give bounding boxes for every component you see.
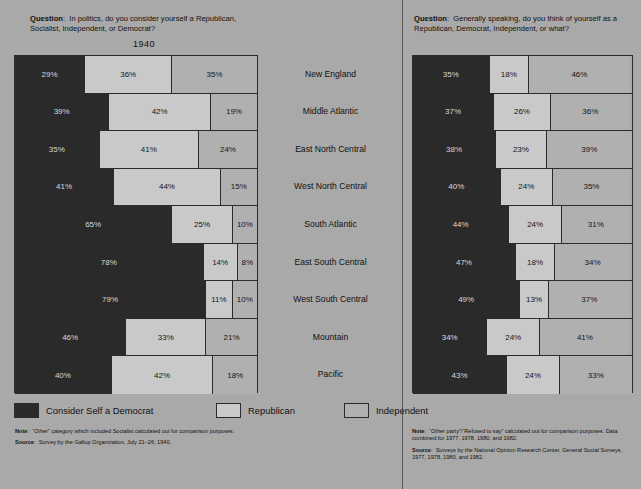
bar-segment-democrat: 34% <box>413 319 487 356</box>
bar-segment-independent: 39% <box>547 131 632 168</box>
region-label-mountain: Mountain <box>258 318 403 356</box>
bar-segment-republican: 33% <box>126 319 206 356</box>
bar-segment-republican: 13% <box>520 281 548 318</box>
bar-segment-democrat: 44% <box>413 206 509 243</box>
region-label-column: New EnglandMiddle AtlanticEast North Cen… <box>258 55 403 393</box>
bar-row: 29%36%35% <box>15 56 257 94</box>
bar-row: 65%25%10% <box>15 206 257 244</box>
right-note-text: “Other party”/“Refused to say” calculate… <box>412 428 618 441</box>
right-question-label: Question <box>414 14 447 23</box>
left-footnotes: Note: “Other” category which included So… <box>15 428 245 451</box>
region-label-south-atlantic: South Atlantic <box>258 205 403 243</box>
right-note: Note: “Other party”/“Refused to say” cal… <box>412 428 636 443</box>
right-footnotes: Note: “Other party”/“Refused to say” cal… <box>412 428 636 466</box>
bar-segment-democrat: 43% <box>413 356 507 394</box>
bar-segment-republican: 11% <box>206 281 233 318</box>
bar-segment-independent: 41% <box>540 319 630 356</box>
legend-item-independent: Independent <box>344 403 428 418</box>
bar-segment-democrat: 47% <box>413 244 516 281</box>
region-label-new-england: New England <box>258 55 403 93</box>
region-label-west-south-central: West South Central <box>258 280 403 318</box>
left-source-label: Source <box>15 439 34 445</box>
bar-segment-independent: 37% <box>549 281 630 318</box>
bar-segment-republican: 24% <box>487 319 540 356</box>
bar-segment-independent: 31% <box>562 206 630 243</box>
bar-segment-democrat: 49% <box>413 281 520 318</box>
bar-segment-republican: 41% <box>100 131 199 168</box>
bar-segment-republican: 36% <box>85 56 172 93</box>
left-note: Note: “Other” category which included So… <box>15 428 245 435</box>
bar-segment-republican: 18% <box>516 244 555 281</box>
bar-segment-republican: 44% <box>114 169 220 206</box>
bar-segment-independent: 35% <box>172 56 257 93</box>
bar-segment-independent: 21% <box>206 319 257 356</box>
bar-segment-independent: 35% <box>553 169 630 206</box>
bar-segment-republican: 24% <box>501 169 554 206</box>
bar-segment-independent: 15% <box>221 169 257 206</box>
bar-row: 78%14%8% <box>15 244 257 282</box>
left-question-block: Question: In politics, do you consider y… <box>30 14 260 33</box>
right-panel: Question: Generally speaking, do you thi… <box>403 0 641 489</box>
bar-row: 39%42%19% <box>15 94 257 132</box>
bar-segment-independent: 34% <box>555 244 629 281</box>
legend-swatch-democrat <box>14 403 39 418</box>
bar-segment-democrat: 41% <box>15 169 114 206</box>
right-source: Source: Surveys by the National Opinion … <box>412 447 636 462</box>
region-label-east-south-central: East South Central <box>258 243 403 281</box>
bar-segment-independent: 36% <box>551 94 630 131</box>
bar-segment-democrat: 78% <box>15 244 204 281</box>
bar-segment-independent: 18% <box>213 356 257 394</box>
legend-swatch-independent <box>344 403 369 418</box>
legend-item-republican: Republican <box>216 403 295 418</box>
bar-segment-republican: 24% <box>507 356 560 394</box>
left-note-text: “Other” category which included Socialis… <box>32 428 234 434</box>
bar-row: 41%44%15% <box>15 169 257 207</box>
bar-segment-republican: 42% <box>109 94 211 131</box>
bar-segment-republican: 18% <box>490 56 529 93</box>
right-source-text: Surveys by the National Opinion Research… <box>412 447 622 460</box>
bar-row: 37%26%36% <box>413 94 632 132</box>
chart-legend: Consider Self a DemocratRepublicanIndepe… <box>14 399 403 421</box>
bar-segment-independent: 10% <box>233 206 257 243</box>
bar-row: 35%18%46% <box>413 56 632 94</box>
bar-segment-independent: 19% <box>211 94 257 131</box>
bar-segment-democrat: 39% <box>15 94 109 131</box>
bar-segment-republican: 14% <box>204 244 238 281</box>
bar-segment-democrat: 46% <box>15 319 126 356</box>
bar-segment-democrat: 40% <box>413 169 501 206</box>
bar-segment-democrat: 79% <box>15 281 206 318</box>
legend-label-republican: Republican <box>248 405 295 416</box>
bar-row: 47%18%34% <box>413 244 632 282</box>
bar-segment-republican: 24% <box>509 206 562 243</box>
left-source-text: Survey by the Gallup Organization, July … <box>39 439 171 445</box>
bar-row: 35%41%24% <box>15 131 257 169</box>
bar-row: 43%24%33% <box>413 356 632 394</box>
left-question-label: Question <box>30 14 63 23</box>
legend-item-democrat: Consider Self a Democrat <box>14 403 153 418</box>
bar-segment-independent: 10% <box>233 281 257 318</box>
left-chart-year-title: 1940 <box>30 39 258 49</box>
bar-segment-democrat: 37% <box>413 94 494 131</box>
chart-page: Question: In politics, do you consider y… <box>0 0 641 489</box>
bar-segment-democrat: 35% <box>413 56 490 93</box>
bar-segment-independent: 46% <box>529 56 630 93</box>
bar-segment-democrat: 65% <box>15 206 172 243</box>
legend-swatch-republican <box>216 403 241 418</box>
right-question-block: Question: Generally speaking, do you thi… <box>414 14 630 33</box>
right-source-label: Source <box>412 447 431 453</box>
region-label-east-north-central: East North Central <box>258 130 403 168</box>
left-note-label: Note <box>15 428 27 434</box>
legend-label-democrat: Consider Self a Democrat <box>46 405 153 416</box>
legend-label-independent: Independent <box>376 405 428 416</box>
left-stacked-bar-chart: 29%36%35%39%42%19%35%41%24%41%44%15%65%2… <box>14 55 258 393</box>
bar-row: 34%24%41% <box>413 319 632 357</box>
bar-segment-independent: 8% <box>238 244 257 281</box>
region-label-pacific: Pacific <box>258 355 403 393</box>
bar-row: 44%24%31% <box>413 206 632 244</box>
bar-segment-democrat: 29% <box>15 56 85 93</box>
bar-segment-independent: 24% <box>199 131 257 168</box>
region-label-west-north-central: West North Central <box>258 168 403 206</box>
bar-row: 79%11%10% <box>15 281 257 319</box>
bar-row: 40%42%18% <box>15 356 257 394</box>
bar-segment-republican: 23% <box>496 131 546 168</box>
